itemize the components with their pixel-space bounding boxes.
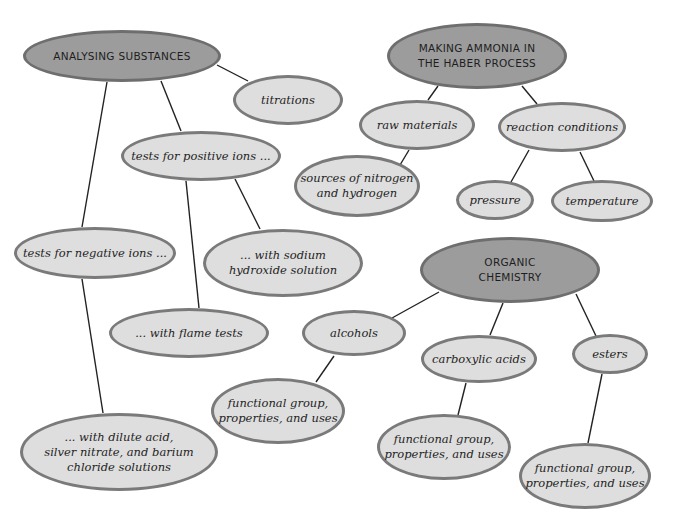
subtopic-fg_esters: functional group, properties, and uses	[519, 443, 651, 509]
connector-negative-dilute	[82, 279, 103, 413]
connector-esters-fg_esters	[588, 374, 602, 443]
node-label: pressure	[469, 193, 520, 208]
node-label: carboxylic acids	[432, 352, 526, 367]
node-label: tests for positive ions ...	[131, 149, 271, 164]
subtopic-carboxylic: carboxylic acids	[421, 335, 537, 383]
connector-ammonia-raw	[428, 86, 438, 100]
node-label: raw materials	[377, 118, 458, 133]
subtopic-alcohols: alcohols	[302, 310, 406, 356]
connector-carboxylic-fg_carboxylic	[458, 383, 466, 415]
node-label: ... with dilute acid, silver nitrate, an…	[44, 430, 194, 475]
subtopic-titrations: titrations	[233, 75, 343, 125]
main-topic-ammonia: MAKING AMMONIA IN THE HABER PROCESS	[387, 23, 567, 89]
subtopic-fg_alcohols: functional group, properties, and uses	[211, 378, 345, 444]
subtopic-esters: esters	[572, 334, 648, 374]
connector-analysing-titrations	[217, 65, 248, 81]
node-label: titrations	[261, 93, 315, 108]
concept-map: ANALYSING SUBSTANCEStitrationstests for …	[0, 0, 679, 526]
connector-analysing-positive	[161, 81, 181, 131]
connector-positive-flame	[186, 181, 199, 308]
subtopic-dilute: ... with dilute acid, silver nitrate, an…	[20, 413, 218, 491]
connector-analysing-negative	[82, 82, 107, 227]
main-topic-analysing: ANALYSING SUBSTANCES	[23, 30, 221, 82]
node-label: functional group, properties, and uses	[218, 396, 337, 426]
node-label: ... with sodium hydroxide solution	[229, 248, 337, 278]
subtopic-pressure: pressure	[456, 180, 534, 220]
connector-alcohols-fg_alcohols	[316, 356, 334, 382]
subtopic-negative: tests for negative ions ...	[14, 227, 176, 279]
connector-organic-carboxylic	[490, 303, 503, 335]
connector-organic-alcohols	[392, 292, 439, 318]
subtopic-fg_carboxylic: functional group, properties, and uses	[377, 414, 511, 480]
subtopic-sodium: ... with sodium hydroxide solution	[203, 229, 363, 297]
node-label: functional group, properties, and uses	[384, 432, 503, 462]
node-label: ... with flame tests	[135, 326, 243, 341]
node-label: temperature	[565, 194, 638, 209]
node-label: tests for negative ions ...	[23, 246, 167, 261]
subtopic-raw: raw materials	[359, 100, 475, 150]
node-label: MAKING AMMONIA IN THE HABER PROCESS	[418, 41, 536, 71]
subtopic-sources: sources of nitrogen and hydrogen	[294, 155, 420, 217]
connector-ammonia-conditions	[522, 86, 537, 104]
node-label: reaction conditions	[506, 120, 618, 135]
node-label: sources of nitrogen and hydrogen	[300, 171, 413, 201]
subtopic-flame: ... with flame tests	[109, 308, 269, 358]
subtopic-positive: tests for positive ions ...	[121, 131, 281, 181]
node-label: ORGANIC CHEMISTRY	[479, 255, 542, 285]
connector-raw-sources	[400, 150, 409, 165]
node-label: esters	[592, 347, 628, 362]
connector-organic-esters	[576, 294, 596, 336]
subtopic-conditions: reaction conditions	[498, 102, 626, 152]
node-label: alcohols	[330, 326, 378, 341]
connector-conditions-temperature	[580, 152, 594, 181]
connector-positive-sodium	[235, 179, 260, 229]
node-label: ANALYSING SUBSTANCES	[53, 49, 190, 64]
connector-conditions-pressure	[511, 150, 529, 182]
node-label: functional group, properties, and uses	[525, 461, 644, 491]
main-topic-organic: ORGANIC CHEMISTRY	[420, 237, 600, 303]
subtopic-temperature: temperature	[551, 180, 653, 222]
